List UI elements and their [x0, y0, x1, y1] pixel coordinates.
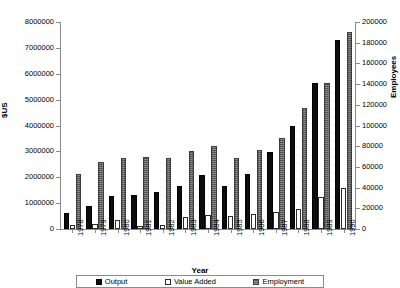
x-axis-tick	[118, 229, 119, 233]
x-axis-tick	[72, 229, 73, 233]
bar-output	[154, 192, 159, 229]
bar-employment	[347, 32, 352, 229]
y-axis-left-tick-label: 6000000	[0, 70, 54, 78]
bar-value-added	[205, 215, 210, 229]
year-bar-group	[267, 22, 284, 229]
y-axis-left-tick-label: 2000000	[0, 173, 54, 181]
bar-value-added	[115, 220, 120, 229]
x-axis-label-1978: 1978	[76, 206, 85, 236]
y-axis-left-tick	[56, 177, 60, 178]
bar-output	[109, 196, 114, 229]
x-axis-tick	[298, 229, 299, 233]
y-axis-left-tick-label: 7000000	[0, 44, 54, 52]
x-axis-tick	[95, 229, 96, 233]
x-axis-label-1986: 1986	[257, 206, 266, 236]
bar-value-added	[341, 188, 346, 229]
bar-value-added	[273, 212, 278, 229]
year-bar-group	[154, 22, 171, 229]
y-axis-left-tick	[56, 22, 60, 23]
x-axis-tick	[344, 229, 345, 233]
bar-output	[312, 83, 317, 229]
legend-swatch-icon	[253, 279, 259, 285]
x-axis-tick	[208, 229, 209, 233]
bars-layer	[61, 22, 355, 229]
y-axis-left-tick-label: 1000000	[0, 199, 54, 207]
y-axis-left-tick-label: 3000000	[0, 147, 54, 155]
y-axis-right-tick-label: 120000	[362, 101, 400, 109]
x-axis-label-1983: 1983	[189, 206, 198, 236]
year-bar-group	[177, 22, 194, 229]
x-axis-label-1979: 1979	[99, 206, 108, 236]
y-axis-right-tick	[356, 188, 360, 189]
legend-item-employment[interactable]: Employment	[253, 277, 304, 286]
y-axis-right-tick-label: 20000	[362, 204, 400, 212]
year-bar-group	[290, 22, 307, 229]
bar-output	[131, 195, 136, 229]
bar-chart: $US Employees Year 010000002000000300000…	[0, 0, 400, 288]
bar-output	[290, 126, 295, 229]
bar-output	[177, 186, 182, 229]
chart-legend: OutputValue AddedEmployment	[76, 275, 324, 288]
y-axis-left-tick-label: 5000000	[0, 96, 54, 104]
legend-item-value-added[interactable]: Value Added	[165, 277, 216, 286]
y-axis-right-tick	[356, 22, 360, 23]
y-axis-right-tick-label: 40000	[362, 184, 400, 192]
y-axis-right-tick-label: 0	[362, 225, 400, 233]
year-bar-group	[312, 22, 329, 229]
y-axis-left-tick	[56, 48, 60, 49]
x-axis-label-1985: 1985	[235, 206, 244, 236]
y-axis-right-tick	[356, 146, 360, 147]
x-axis-label-1987: 1987	[280, 206, 289, 236]
y-axis-right-tick	[356, 105, 360, 106]
y-axis-right-tick	[356, 43, 360, 44]
bar-value-added	[228, 216, 233, 229]
legend-label: Output	[105, 277, 128, 286]
legend-item-output[interactable]: Output	[96, 277, 128, 286]
bar-output	[86, 206, 91, 229]
y-axis-left-tick	[56, 126, 60, 127]
bar-value-added	[296, 209, 301, 229]
y-axis-right-tick-label: 180000	[362, 39, 400, 47]
x-axis-tick	[140, 229, 141, 233]
y-axis-right-tick-label: 100000	[362, 122, 400, 130]
y-axis-right-tick	[356, 84, 360, 85]
x-axis-title: Year	[0, 266, 400, 275]
year-bar-group	[245, 22, 262, 229]
bar-output	[222, 186, 227, 229]
legend-label: Employment	[262, 277, 304, 286]
year-bar-group	[109, 22, 126, 229]
year-bar-group	[64, 22, 81, 229]
year-bar-group	[131, 22, 148, 229]
x-axis-tick	[321, 229, 322, 233]
x-axis-label-1984: 1984	[212, 206, 221, 236]
y-axis-left-tick-label: 0	[0, 225, 54, 233]
x-axis-label-1981: 1981	[144, 206, 153, 236]
x-axis-label-1989: 1989	[325, 206, 334, 236]
y-axis-right-tick	[356, 167, 360, 168]
bar-value-added	[251, 214, 256, 229]
x-axis-label-1988: 1988	[302, 206, 311, 236]
y-axis-left-tick-label: 4000000	[0, 122, 54, 130]
y-axis-right-tick	[356, 63, 360, 64]
y-axis-right-tick-label: 140000	[362, 80, 400, 88]
year-bar-group	[199, 22, 216, 229]
x-axis-label-1982: 1982	[167, 206, 176, 236]
y-axis-left-tick	[56, 203, 60, 204]
x-axis-label-1990: 1990	[348, 206, 357, 236]
x-axis-tick	[276, 229, 277, 233]
year-bar-group	[335, 22, 352, 229]
y-axis-left-tick-label: 8000000	[0, 18, 54, 26]
y-axis-left-tick	[56, 100, 60, 101]
bar-output	[335, 40, 340, 229]
x-axis-tick	[185, 229, 186, 233]
y-axis-right-tick-label: 160000	[362, 59, 400, 67]
x-axis-tick	[163, 229, 164, 233]
x-axis-tick	[253, 229, 254, 233]
legend-label: Value Added	[174, 277, 216, 286]
year-bar-group	[86, 22, 103, 229]
bar-output	[267, 152, 272, 229]
x-axis-tick	[231, 229, 232, 233]
bar-value-added	[318, 197, 323, 229]
legend-swatch-icon	[96, 279, 102, 285]
bar-output	[199, 175, 204, 229]
